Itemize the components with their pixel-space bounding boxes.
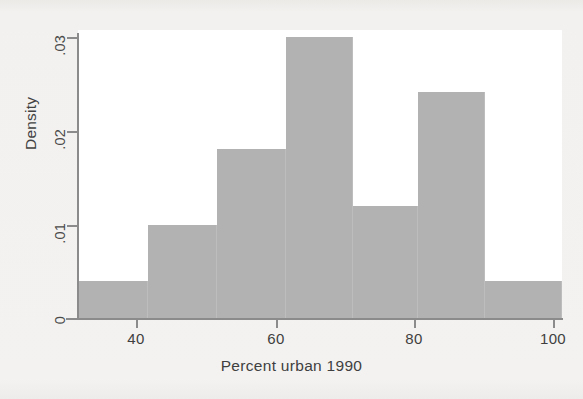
histogram-bar: [148, 225, 217, 319]
histogram-bar: [353, 206, 418, 319]
x-axis-tick: [553, 319, 555, 328]
histogram-bar: [217, 149, 286, 319]
y-axis-tick-label: .02: [52, 129, 68, 150]
y-axis-tick: [67, 318, 77, 320]
x-axis-tick-label: 80: [405, 330, 422, 347]
histogram-bar: [79, 281, 148, 319]
y-axis-tick-label: .03: [52, 35, 68, 56]
x-axis-tick-label: 100: [540, 330, 566, 347]
x-axis-line: [66, 318, 563, 320]
y-axis-tick: [67, 37, 77, 39]
y-axis-tick: [67, 225, 77, 227]
x-axis-tick-label: 60: [267, 330, 284, 347]
x-axis-tick: [136, 319, 138, 328]
histogram-figure: .03 .02 .01 0 40 60 80 100 Density Perce…: [0, 0, 583, 399]
y-axis-title-text: Density: [22, 97, 40, 150]
y-axis-tick-label: .01: [52, 223, 68, 244]
x-axis-tick: [276, 319, 278, 328]
histogram-bar: [286, 37, 353, 319]
x-axis-tick-label: 40: [127, 330, 144, 347]
x-axis-title-text: Percent urban 1990: [221, 357, 363, 374]
histogram-bar: [418, 92, 485, 319]
x-axis-title: Percent urban 1990: [0, 357, 583, 375]
y-axis-line: [77, 33, 79, 319]
y-axis-tick-label: 0: [52, 316, 68, 324]
y-axis-tick: [67, 131, 77, 133]
histogram-bar: [485, 281, 562, 319]
x-axis-tick: [414, 319, 416, 328]
